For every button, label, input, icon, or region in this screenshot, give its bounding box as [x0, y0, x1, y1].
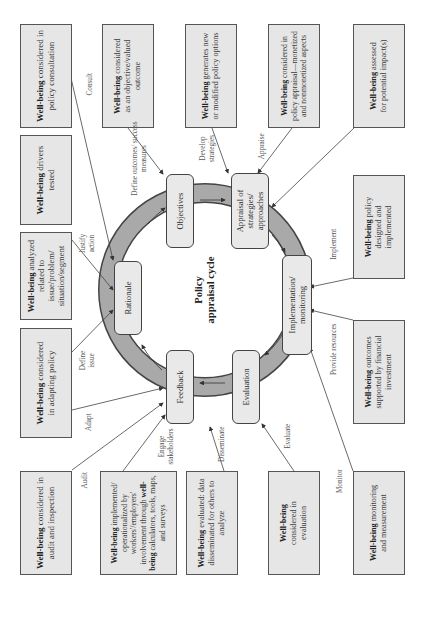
box-monitoring-measurement-text: Well-being monitoring and measurement — [369, 484, 389, 562]
box-generates-options-text: Well-being generates new or modified pol… — [201, 31, 221, 121]
box-adapting-policy-text: Well-being considered in adapting policy — [35, 340, 57, 426]
wellbeing-bold: Well-being — [279, 504, 288, 542]
node-evaluation: Evaluation — [232, 350, 260, 424]
wellbeing-bold: Well-being — [35, 383, 45, 425]
wellbeing-bold: Well-being — [35, 173, 45, 215]
label-adapt: Adapt — [85, 407, 94, 437]
node-objectives-label: Objectives — [175, 193, 185, 230]
label-define-issue: Define issue — [79, 344, 96, 378]
box-drivers-tested: Well-being drivers tested — [20, 135, 72, 225]
box-assessed-impacts-text: Well-being assessed for potential impact… — [369, 37, 389, 115]
box-text-2: calculators, tools, maps, and surveys — [148, 475, 167, 552]
box-objective-outcome: Well-being considered as an objective/va… — [102, 24, 154, 128]
label-consult: Consult — [86, 64, 95, 104]
center-title-line2: appraisal cycle — [205, 245, 217, 335]
label-audit: Audit — [81, 465, 90, 495]
wellbeing-bold: Well-being — [280, 80, 289, 116]
wellbeing-bold: Well-being — [35, 527, 45, 569]
box-designed-implemented: Well-being policy designed and implement… — [353, 175, 405, 279]
wellbeing-bold: Well-being — [364, 219, 373, 257]
wellbeing-bold: Well-being — [197, 530, 206, 568]
wellbeing-bold: Well-being — [26, 273, 36, 313]
node-rationale: Rationale — [114, 261, 142, 335]
box-evaluated-data-text: Well-being evaluated: data disseminated … — [197, 477, 227, 569]
box-monitoring-measurement: Well-being monitoring and measurement — [353, 471, 405, 575]
box-analyzed-issue: Well-being analyzed related to issue/pro… — [20, 232, 72, 320]
box-adapting-policy: Well-being considered in adapting policy — [20, 328, 72, 438]
wellbeing-bold: Well-being — [201, 81, 210, 119]
node-appraisal-label: Appraisal of strategies/ approaches — [235, 190, 265, 233]
label-justify-action: Justify action — [79, 227, 96, 261]
box-consultation: Well-being considered in policy consulta… — [20, 24, 72, 128]
box-assessed-impacts: Well-being assessed for potential impact… — [353, 24, 405, 128]
node-implementation-line2: monitoring — [297, 277, 307, 334]
wellbeing-bold: Well-being — [113, 76, 122, 114]
node-rationale-label: Rationale — [123, 282, 133, 315]
label-appraise: Appraise — [258, 128, 267, 164]
node-appraisal-line3: approaches — [255, 190, 265, 233]
node-feedback: Feedback — [166, 350, 194, 424]
box-policy-appraisal-text: Well-being considered in policy appraisa… — [280, 28, 309, 124]
node-appraisal-line2: strategies/ — [245, 190, 255, 233]
box-considered-evaluation-text: Well-being considered in evaluation — [279, 488, 309, 558]
wellbeing-bold: Well-being — [364, 370, 373, 408]
label-define-outcomes: Define outcomes/ success measures — [131, 120, 148, 198]
wellbeing-bold: Well-being — [110, 527, 119, 563]
label-monitor: Monitor — [336, 461, 345, 501]
box-objective-outcome-text: Well-being considered as an objective/va… — [113, 36, 143, 116]
box-policy-appraisal: Well-being considered in policy appraisa… — [268, 24, 320, 128]
node-evaluation-label: Evaluation — [241, 368, 251, 405]
label-implement: Implement — [330, 222, 339, 266]
node-implementation-line1: Implementation/ — [287, 277, 297, 334]
center-title: Policy appraisal cycle — [193, 245, 217, 335]
label-engage-stakeholders: Engage stakeholders — [158, 421, 175, 473]
box-financial-investment: Well-being outcomes supported by financi… — [353, 320, 405, 424]
node-implementation-label: Implementation/ monitoring — [287, 277, 307, 334]
box-operationalized-text: Well-being implemented/ operationalized … — [110, 474, 168, 572]
center-title-line1: Policy — [193, 245, 205, 335]
box-drivers-tested-text: Well-being drivers tested — [35, 138, 57, 222]
box-consultation-text: Well-being considered in policy consulta… — [35, 28, 57, 124]
wellbeing-bold: Well-being — [35, 80, 45, 122]
node-appraisal-line1: Appraisal of — [235, 190, 245, 233]
node-objectives: Objectives — [166, 174, 194, 248]
box-text: considered in evaluation — [289, 501, 308, 545]
box-audit-inspection-text: Well-being considered in audit and inspe… — [35, 477, 57, 569]
box-generates-options: Well-being generates new or modified pol… — [185, 24, 237, 128]
box-audit-inspection: Well-being considered in audit and inspe… — [20, 471, 72, 575]
policy-appraisal-diagram: Policy appraisal cycle Objectives Apprai… — [0, 0, 426, 618]
label-provide-resources: Provide resources — [330, 313, 339, 385]
node-feedback-label: Feedback — [175, 371, 185, 404]
label-evaluate: Evaluate — [284, 416, 293, 456]
box-financial-investment-text: Well-being outcomes supported by financi… — [364, 324, 394, 420]
box-analyzed-issue-text: Well-being analyzed related to issue/pro… — [26, 234, 66, 318]
box-considered-evaluation: Well-being considered in evaluation — [268, 471, 320, 575]
wellbeing-bold: Well-being — [369, 72, 378, 110]
wellbeing-bold: Well-being — [369, 523, 378, 561]
box-evaluated-data: Well-being evaluated: data disseminated … — [186, 471, 238, 575]
label-disseminate: Disseminate — [218, 418, 227, 470]
box-designed-implemented-text: Well-being policy designed and implement… — [364, 187, 394, 267]
box-operationalized: Well-being implemented/ operationalized … — [100, 471, 177, 575]
node-implementation: Implementation/ monitoring — [282, 255, 312, 355]
node-appraisal: Appraisal of strategies/ approaches — [231, 173, 269, 249]
label-develop-strategies: Develop strategies — [199, 130, 216, 168]
